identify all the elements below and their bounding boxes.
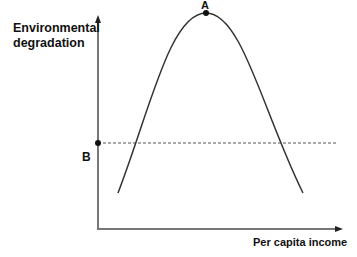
x-axis-arrow-icon	[335, 226, 343, 232]
kuznets-curve	[118, 13, 303, 193]
y-axis-label-line1: Environmental	[13, 21, 100, 35]
x-axis-label: Per capita income	[253, 236, 347, 248]
point-a-label: A	[201, 0, 209, 11]
y-axis-label-line2: degradation	[13, 36, 85, 50]
ekc-diagram: Environmental degradation A B Per capita…	[0, 0, 357, 257]
point-b-label: B	[82, 150, 91, 164]
point-b-marker	[95, 140, 101, 146]
